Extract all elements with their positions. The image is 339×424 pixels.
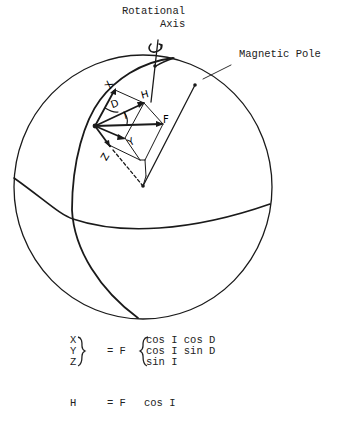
observation-point-dot — [93, 124, 98, 129]
earth-center-dot — [141, 184, 145, 188]
magnetic-pole-dot — [193, 83, 197, 87]
eq-lhs-z: Z — [70, 357, 76, 368]
rotational-axis-label-line1: Rotational — [122, 5, 185, 17]
f-vector — [95, 124, 161, 126]
vertical-short-edge — [145, 160, 146, 176]
meridian-line — [72, 58, 173, 318]
z-tip-dot — [109, 145, 111, 147]
rotation-arrow-icon — [149, 44, 161, 52]
eq-h-lhs: H — [70, 398, 76, 409]
axis-pole-dot — [153, 64, 157, 68]
rotational-axis-label-line2: Axis — [160, 18, 185, 30]
eq-equals-f: = F — [107, 346, 126, 357]
eq-rhs-z: sin I — [146, 357, 178, 368]
magnetic-pole-label: Magnetic Pole — [239, 48, 321, 60]
rotational-axis-line — [151, 40, 158, 102]
h-arrowhead-icon — [137, 102, 145, 108]
f-vector-label: F — [163, 114, 169, 126]
dashed-radius-line — [113, 150, 143, 186]
eq-h-rhs: cos I — [144, 398, 176, 409]
y-arrowhead-icon — [117, 134, 126, 140]
h-to-f-edge — [144, 103, 163, 124]
f-down-edge — [145, 124, 163, 160]
eq-h-equals-f: = F — [107, 398, 126, 409]
